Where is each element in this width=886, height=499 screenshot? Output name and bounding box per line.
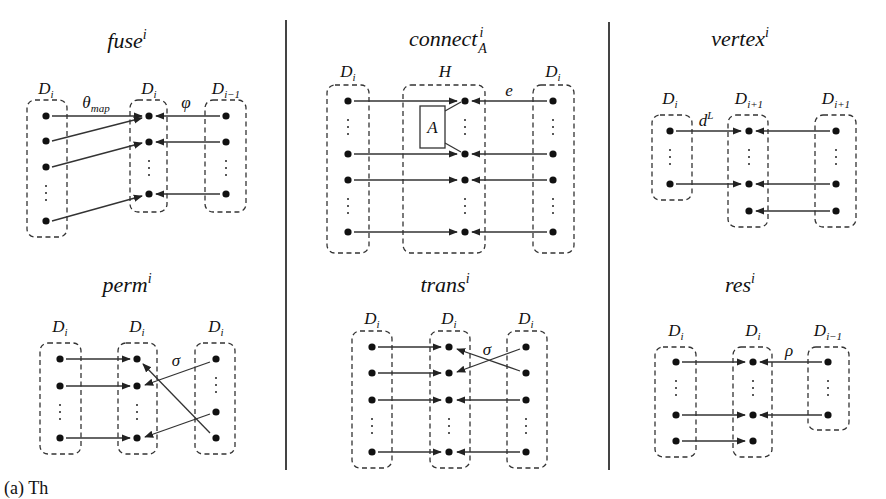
panel-trans: transi Di Di Di σ bbox=[352, 271, 547, 468]
panel-title-vertex: vertexi bbox=[711, 25, 769, 51]
panel-title-trans: transi bbox=[420, 271, 469, 297]
panel-fuse: fusei Di Di Di−1 θmap φ bbox=[27, 27, 246, 237]
panel-vertex: vertexi Di Di+1 Di+1 dL bbox=[652, 25, 856, 227]
column-label: Di bbox=[544, 62, 560, 83]
panel-title-perm: permi bbox=[100, 271, 151, 297]
edge-label-rho: ρ bbox=[784, 341, 793, 360]
column-label: Di bbox=[363, 309, 379, 330]
edge-label-sigma: σ bbox=[483, 340, 492, 359]
column-label: H bbox=[438, 62, 453, 81]
column-label: Di bbox=[128, 317, 144, 338]
column-label: Di bbox=[661, 89, 677, 110]
panel-title-connect: connectiA bbox=[409, 25, 487, 56]
edge-label-sigma: σ bbox=[172, 351, 181, 370]
edge-label-theta-map: θmap bbox=[82, 93, 110, 114]
set-box bbox=[652, 115, 692, 200]
column-label: Di bbox=[37, 79, 53, 100]
column-label: Di bbox=[339, 62, 355, 83]
column-label: Di bbox=[440, 309, 456, 330]
edge-label-phi: φ bbox=[181, 93, 190, 112]
column-label: Di+1 bbox=[734, 89, 763, 110]
column-label: Di bbox=[517, 309, 533, 330]
panel-res: resi Di Di Di−1 ρ bbox=[655, 271, 849, 457]
edge-label-e: e bbox=[505, 81, 513, 100]
column-label: Di+1 bbox=[821, 89, 850, 110]
set-box bbox=[533, 85, 574, 253]
column-label: Di−1 bbox=[211, 79, 240, 100]
column-label: Di bbox=[140, 79, 156, 100]
column-label: Di bbox=[51, 317, 67, 338]
inner-box-label: A bbox=[426, 118, 438, 137]
edge-label-dL: dL bbox=[699, 109, 714, 130]
column-label: Di bbox=[667, 321, 683, 342]
panel-perm: permi Di Di Di σ bbox=[40, 271, 235, 454]
column-label: Di−1 bbox=[813, 321, 842, 342]
figure-caption: (a) Th bbox=[4, 478, 48, 499]
panel-title-fuse: fusei bbox=[107, 27, 146, 53]
column-label: Di bbox=[207, 317, 223, 338]
set-box bbox=[327, 85, 369, 253]
panel-connect: connectiA Di H Di e A bbox=[327, 25, 574, 253]
panel-title-res: resi bbox=[725, 271, 755, 297]
column-label: Di bbox=[744, 321, 760, 342]
